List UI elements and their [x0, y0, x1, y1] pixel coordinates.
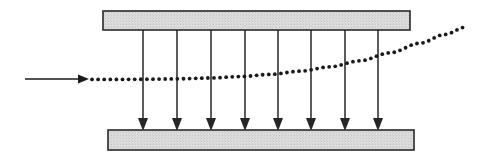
trajectory-dot: [176, 77, 180, 81]
trajectory-dot: [392, 50, 396, 54]
trajectory-dot: [267, 73, 271, 77]
trajectory-dot: [455, 28, 459, 32]
trajectory-dot: [421, 41, 425, 45]
trajectory-dot: [432, 36, 436, 40]
trajectory-dot: [206, 76, 210, 80]
trajectory-dot: [333, 64, 337, 68]
trajectory-dot: [327, 65, 331, 69]
top-plate-body: [103, 11, 410, 30]
trajectory-dot: [375, 54, 379, 58]
trajectory-dot: [127, 77, 131, 81]
field-arrowhead-4: [240, 118, 250, 131]
trajectory-dot: [115, 78, 119, 82]
trajectory-dot: [303, 69, 307, 73]
trajectory-dot: [224, 75, 228, 79]
trajectory-dot: [243, 75, 247, 79]
trajectory-dot: [285, 71, 289, 75]
trajectory-dot: [309, 68, 313, 72]
trajectory-dot: [212, 76, 216, 80]
trajectory-dot: [273, 72, 277, 76]
bottom-plate: [108, 130, 414, 150]
trajectory-dot: [121, 78, 125, 82]
field-arrowhead-8: [373, 118, 383, 131]
trajectory-dot: [444, 32, 448, 36]
diagram-canvas: [0, 0, 495, 164]
trajectory-dot: [102, 78, 106, 82]
trajectory-dot: [279, 72, 283, 76]
field-arrowhead-5: [273, 118, 283, 131]
incoming-beam-arrow: [25, 75, 89, 84]
trajectory-dot: [345, 61, 349, 65]
trajectory-dot: [386, 51, 390, 55]
field-arrow-group: [138, 30, 383, 131]
trajectory-dot: [182, 77, 186, 81]
parallel-plate-deflection-diagram: [0, 0, 495, 164]
trajectory-dot: [169, 77, 173, 81]
trajectory-dot: [145, 77, 149, 81]
field-arrowhead-3: [206, 118, 216, 131]
trajectory-dot: [297, 69, 301, 73]
field-arrowhead-7: [340, 118, 350, 131]
trajectory-dot: [363, 58, 367, 62]
trajectory-dot: [427, 39, 431, 43]
trajectory-dot: [163, 77, 167, 81]
trajectory-dot: [415, 42, 419, 46]
trajectory-dot: [369, 57, 373, 61]
field-arrowhead-1: [138, 118, 148, 131]
trajectory-dot: [461, 26, 465, 30]
trajectory-dot: [261, 73, 265, 77]
trajectory-dot: [315, 67, 319, 71]
trajectory-dot: [151, 77, 155, 81]
trajectory-dot: [409, 43, 413, 47]
trajectory-dot: [255, 73, 259, 77]
trajectory-dot: [339, 63, 343, 67]
trajectory-dot: [404, 46, 408, 50]
trajectory-dot: [108, 78, 112, 82]
trajectory-dot: [230, 75, 234, 79]
trajectory-dot: [90, 78, 94, 82]
trajectory-dot: [450, 31, 454, 35]
trajectory-dot: [139, 77, 143, 81]
trajectory-dot: [200, 76, 204, 80]
trajectory-dot: [351, 60, 355, 64]
trajectory-dot: [398, 48, 402, 52]
field-arrowhead-6: [306, 118, 316, 131]
trajectory-dot: [291, 70, 295, 74]
trajectory-dot: [249, 74, 253, 78]
field-arrowhead-2: [172, 118, 182, 131]
trajectory-dot: [133, 77, 137, 81]
trajectory-dot: [157, 77, 161, 81]
trajectory-dot: [380, 52, 384, 56]
trajectory-dot: [357, 59, 361, 63]
trajectory-dot: [218, 76, 222, 80]
trajectory-dot: [188, 77, 192, 81]
incoming-beam-arrowhead: [78, 75, 89, 84]
top-plate: [103, 11, 410, 30]
trajectory-dot: [194, 76, 198, 80]
trajectory-dot: [321, 65, 325, 69]
trajectory-dot: [438, 34, 442, 38]
trajectory-dot: [96, 78, 100, 82]
trajectory-dot: [236, 75, 240, 79]
bottom-plate-body: [108, 130, 414, 150]
